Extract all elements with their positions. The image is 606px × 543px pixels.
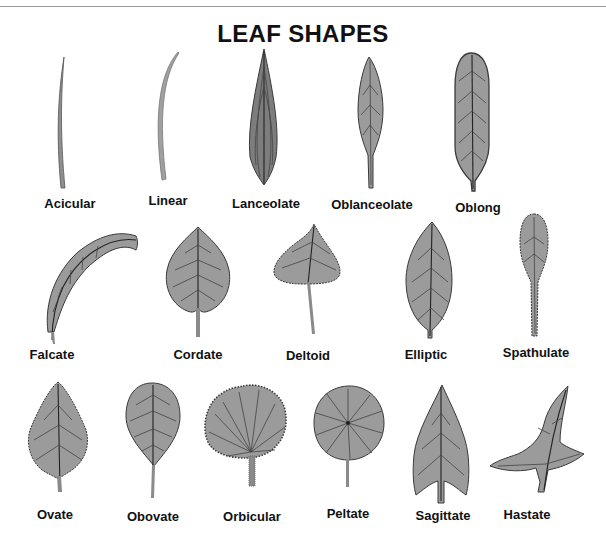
leaf-label-peltate: Peltate <box>327 506 370 521</box>
top-border-line <box>0 6 606 7</box>
page-title: LEAF SHAPES <box>0 20 606 48</box>
leaf-label-oblong: Oblong <box>455 200 501 215</box>
leaf-label-oblanceolate: Oblanceolate <box>331 197 413 212</box>
leaf-label-hastate: Hastate <box>504 507 551 522</box>
leaf-label-cordate: Cordate <box>173 347 222 362</box>
leaf-label-deltoid: Deltoid <box>286 348 330 363</box>
leaf-label-sagittate: Sagittate <box>416 508 471 523</box>
leaf-label-lanceolate: Lanceolate <box>232 196 300 211</box>
leaf-label-falcate: Falcate <box>30 347 75 362</box>
leaf-label-linear: Linear <box>148 193 187 208</box>
leaf-label-acicular: Acicular <box>44 196 95 211</box>
leaf-label-elliptic: Elliptic <box>405 347 448 362</box>
leaf-label-spathulate: Spathulate <box>503 345 569 360</box>
leaf-label-ovate: Ovate <box>37 507 73 522</box>
leaf-label-orbicular: Orbicular <box>223 509 281 524</box>
leaf-label-obovate: Obovate <box>127 509 179 524</box>
